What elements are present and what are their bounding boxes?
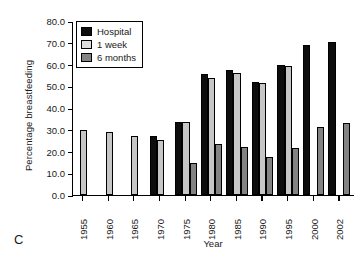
y-tick-label: 20.0 bbox=[47, 147, 66, 158]
y-tick-label: 30.0 bbox=[47, 125, 66, 136]
x-tick-mark bbox=[133, 196, 134, 201]
y-axis-title: Percentage breastfeeding bbox=[23, 36, 34, 196]
x-tick-mark bbox=[82, 196, 83, 201]
bar-hospital bbox=[252, 82, 259, 195]
bar-group bbox=[303, 22, 329, 195]
bar-months bbox=[317, 127, 324, 196]
legend-label: 6 months bbox=[97, 52, 136, 63]
legend: Hospital1 week6 months bbox=[76, 21, 143, 68]
x-tick-mark bbox=[236, 196, 237, 201]
bar-week bbox=[131, 136, 138, 195]
bar-hospital bbox=[226, 70, 233, 195]
bar-hospital bbox=[277, 65, 284, 196]
bar-week bbox=[233, 73, 240, 195]
bar-group bbox=[277, 22, 303, 195]
x-tick-mark bbox=[210, 196, 211, 201]
y-tick-label: 0.0 bbox=[52, 190, 65, 201]
bar-group bbox=[150, 22, 176, 195]
bar-hospital bbox=[303, 45, 310, 195]
y-tick-label: 10.0 bbox=[47, 168, 66, 179]
y-tick-label: 50.0 bbox=[47, 81, 66, 92]
panel-letter: C bbox=[14, 232, 23, 247]
bar-months bbox=[241, 147, 248, 195]
legend-label: Hospital bbox=[97, 26, 131, 37]
bar-group bbox=[252, 22, 278, 195]
y-tick-label: 80.0 bbox=[47, 16, 66, 27]
bar-week bbox=[208, 78, 215, 195]
bar-week bbox=[106, 132, 113, 195]
x-tick-mark bbox=[287, 196, 288, 201]
legend-item-months: 6 months bbox=[81, 51, 136, 64]
bar-group bbox=[201, 22, 227, 195]
legend-swatch-hospital bbox=[81, 27, 92, 36]
y-tick-label: 70.0 bbox=[47, 38, 66, 49]
bar-hospital bbox=[150, 136, 157, 195]
legend-item-week: 1 week bbox=[81, 38, 136, 51]
x-tick-mark bbox=[108, 196, 109, 201]
legend-item-hospital: Hospital bbox=[81, 25, 136, 38]
bar-hospital bbox=[201, 74, 208, 195]
bar-group bbox=[328, 22, 354, 195]
bar-hospital bbox=[175, 122, 182, 195]
x-tick-mark bbox=[159, 196, 160, 201]
x-axis-title: Year bbox=[72, 238, 354, 249]
bar-hospital bbox=[328, 42, 335, 195]
x-tick-mark bbox=[338, 196, 339, 201]
bar-months bbox=[190, 163, 197, 195]
y-tick-label: 60.0 bbox=[47, 60, 66, 71]
x-tick-mark bbox=[313, 196, 314, 201]
bar-week bbox=[182, 122, 189, 195]
bar-months bbox=[215, 144, 222, 195]
legend-label: 1 week bbox=[97, 39, 127, 50]
breastfeeding-bar-chart-figure: Percentage breastfeeding 0.010.020.030.0… bbox=[0, 0, 362, 260]
bar-week bbox=[157, 140, 164, 195]
bar-group bbox=[175, 22, 201, 195]
bar-months bbox=[292, 148, 299, 195]
bar-week bbox=[259, 83, 266, 195]
bar-week bbox=[80, 130, 87, 195]
y-tick-label: 40.0 bbox=[47, 103, 66, 114]
legend-swatch-week bbox=[81, 40, 92, 49]
bar-week bbox=[285, 66, 292, 195]
legend-swatch-months bbox=[81, 53, 92, 62]
bar-months bbox=[343, 123, 350, 195]
x-tick-mark bbox=[185, 196, 186, 201]
x-tick-mark bbox=[261, 196, 262, 201]
bar-group bbox=[226, 22, 252, 195]
bar-months bbox=[266, 157, 273, 195]
